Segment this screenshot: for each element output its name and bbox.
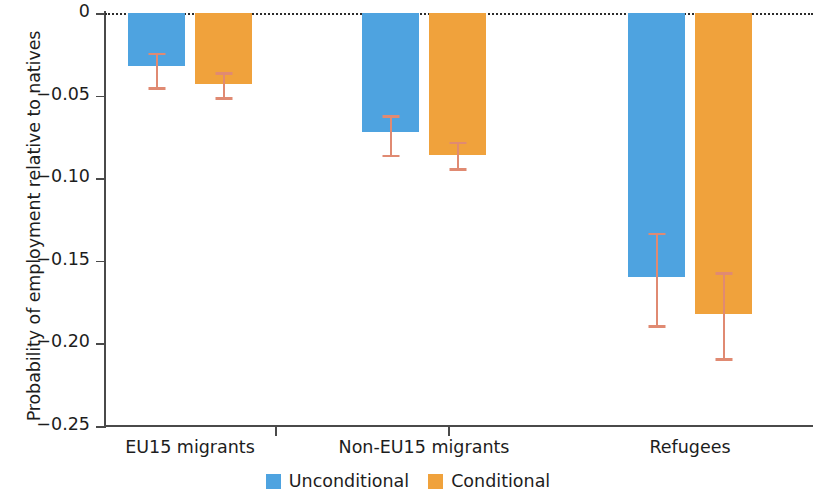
x-axis-category-label: EU15 migrants — [125, 437, 255, 457]
error-bar-cap-upper — [215, 72, 232, 74]
error-bar-cap-lower — [148, 87, 165, 89]
error-bar-line — [156, 53, 158, 88]
error-bar-line — [656, 233, 658, 326]
plot-area: 0−0.05−0.10−0.15−0.20−0.25 — [105, 13, 813, 426]
y-axis-tick: −0.05 — [96, 96, 105, 98]
error-bar-line — [457, 142, 459, 168]
y-axis-tick-label: −0.25 — [36, 414, 90, 434]
legend-label: Unconditional — [289, 471, 409, 491]
legend-item-conditional[interactable]: Conditional — [428, 471, 550, 491]
x-axis-category-label: Non-EU15 migrants — [339, 437, 510, 457]
bar-unconditional-1 — [362, 13, 419, 132]
error-bar-cap-lower — [215, 97, 232, 99]
error-bar-cap-upper — [382, 115, 399, 117]
x-axis-category-label: Refugees — [649, 437, 730, 457]
y-axis-tick-label: −0.15 — [36, 249, 90, 269]
legend-item-unconditional[interactable]: Unconditional — [266, 471, 409, 491]
bar-conditional-2 — [695, 13, 752, 314]
legend-swatch-blue-icon — [266, 474, 281, 489]
bar-chart-figure: Probability of employment relative to na… — [0, 0, 816, 498]
error-bar-line — [223, 72, 225, 97]
error-bar-cap-lower — [715, 358, 732, 360]
error-bar-cap-lower — [382, 155, 399, 157]
error-bar-cap-lower — [648, 325, 665, 327]
legend-label: Conditional — [451, 471, 550, 491]
error-bar-cap-upper — [715, 272, 732, 274]
error-bar-cap-lower — [449, 168, 466, 170]
error-bar-cap-upper — [648, 233, 665, 235]
y-axis-tick-label: 0 — [79, 1, 90, 21]
error-bar-line — [723, 272, 725, 358]
y-axis-tick-label: −0.05 — [36, 84, 90, 104]
error-bar-cap-upper — [148, 53, 165, 55]
legend-swatch-orange-icon — [428, 474, 443, 489]
y-axis-title: Probability of employment relative to na… — [24, 6, 44, 446]
x-axis-separator-tick — [448, 425, 450, 436]
y-axis-tick: −0.10 — [96, 178, 105, 180]
y-axis-tick-label: −0.20 — [36, 331, 90, 351]
error-bar-cap-upper — [449, 142, 466, 144]
y-axis-tick: −0.15 — [96, 261, 105, 263]
y-axis-tick: −0.25 — [96, 426, 105, 428]
x-axis-separator-tick — [275, 425, 277, 436]
chart-legend: UnconditionalConditional — [0, 471, 816, 491]
bar-conditional-1 — [429, 13, 486, 155]
y-axis-tick-label: −0.10 — [36, 166, 90, 186]
y-axis-tick: −0.20 — [96, 343, 105, 345]
error-bar-line — [390, 115, 392, 155]
y-axis-tick: 0 — [96, 13, 105, 15]
